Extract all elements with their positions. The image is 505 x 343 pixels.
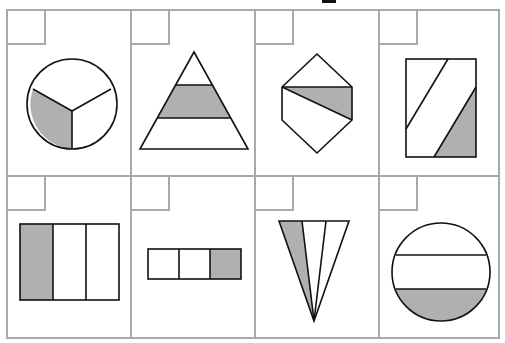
cropped-text-fragment: [322, 0, 336, 3]
fraction-grid: [6, 9, 500, 339]
cone-thirds-figure: [256, 177, 382, 341]
cell-circle-thirds: [6, 9, 132, 177]
rectangle-diagonal-figure: [380, 11, 502, 179]
cell-circle-strips: [378, 175, 500, 339]
worksheet: [0, 0, 505, 343]
cell-bar-thirds: [130, 175, 256, 339]
cell-triangle-strips: [130, 9, 256, 177]
bar-thirds-figure: [132, 177, 258, 341]
cell-square-thirds: [6, 175, 132, 339]
circle-strips-figure: [380, 177, 502, 341]
cell-cone-thirds: [254, 175, 380, 339]
cell-rectangle-diagonal: [378, 9, 500, 177]
square-thirds-figure: [8, 177, 134, 341]
cell-hexagon: [254, 9, 380, 177]
hexagon-figure: [256, 11, 382, 179]
circle-thirds-figure: [8, 11, 134, 179]
triangle-strips-figure: [132, 11, 258, 179]
